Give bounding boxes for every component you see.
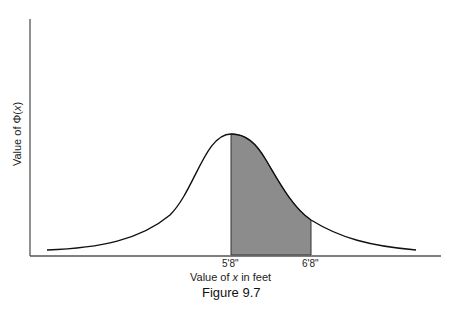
shaded-area [231,134,311,255]
x-tick-mean: 5'8" [222,258,239,269]
figure-caption: Figure 9.7 [202,285,261,300]
y-axis-label: Value of Φ(x) [11,84,23,184]
x-tick-upper: 6'8" [302,258,319,269]
x-axis-label: Value of x in feet [190,271,271,283]
